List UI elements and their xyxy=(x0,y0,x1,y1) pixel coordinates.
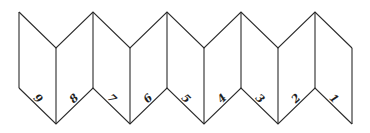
panel-numerals: 9 8 7 6 5 4 3 2 1 xyxy=(31,91,342,107)
fold-diagram-canvas: 9 8 7 6 5 4 3 2 1 xyxy=(0,0,370,133)
fold-outline xyxy=(19,12,352,124)
top-zigzag-edge xyxy=(19,12,352,48)
panel-numeral-5: 5 xyxy=(179,91,194,106)
panel-numeral-9: 1 xyxy=(327,91,342,106)
panel-numeral-6: 4 xyxy=(215,91,230,106)
panel-numeral-3: 7 xyxy=(105,91,120,106)
panel-numeral-4: 6 xyxy=(141,91,156,106)
panel-numeral-7: 3 xyxy=(253,91,268,106)
folded-strip-diagram: 9 8 7 6 5 4 3 2 1 xyxy=(0,0,370,133)
panel-numeral-8: 2 xyxy=(288,91,304,107)
panel-numeral-1: 9 xyxy=(31,91,46,106)
panel-numeral-2: 8 xyxy=(67,91,82,106)
